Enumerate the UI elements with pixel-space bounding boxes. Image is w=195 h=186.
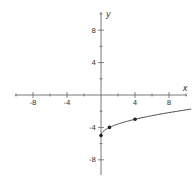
y-tick-label: -4 bbox=[89, 124, 97, 132]
y-tick-label: -8 bbox=[89, 156, 96, 164]
x-tick-label: -4 bbox=[64, 99, 72, 107]
axes bbox=[15, 12, 187, 175]
function-curve bbox=[101, 109, 191, 135]
graph: -8-44884-4-8xy bbox=[0, 0, 195, 186]
data-point bbox=[108, 126, 112, 130]
x-tick-label: 8 bbox=[167, 99, 171, 107]
data-point bbox=[133, 118, 137, 122]
y-tick-label: 4 bbox=[92, 59, 97, 67]
y-axis-label: y bbox=[105, 10, 111, 19]
tick-labels: -8-44884-4-8xy bbox=[30, 10, 188, 164]
y-tick-label: 8 bbox=[92, 27, 96, 35]
data-point bbox=[99, 134, 103, 138]
x-tick-label: -8 bbox=[30, 99, 37, 107]
x-tick-label: 4 bbox=[133, 99, 138, 107]
x-axis-label: x bbox=[182, 84, 188, 93]
